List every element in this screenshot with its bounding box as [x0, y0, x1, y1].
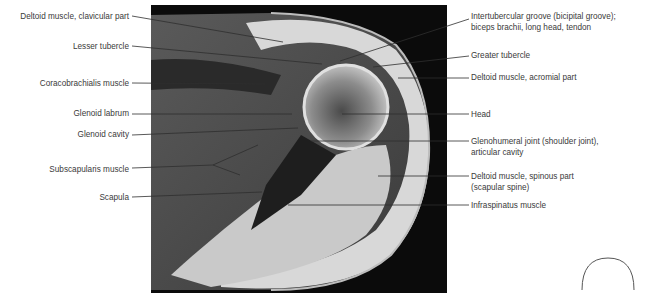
label-lesser-tubercle: Lesser tubercle: [73, 41, 129, 52]
label-head: Head: [471, 109, 491, 120]
label-deltoid-acromial: Deltoid muscle, acromial part: [471, 72, 577, 83]
label-deltoid-clavicular: Deltoid muscle, clavicular part: [20, 11, 129, 22]
label-greater-tubercle: Greater tubercle: [471, 50, 530, 61]
label-glenohumeral-joint: Glenohumeral joint (shoulder joint),arti…: [471, 136, 598, 158]
label-glenoid-cavity: Glenoid cavity: [78, 129, 129, 140]
label-glenoid-labrum: Glenoid labrum: [73, 108, 129, 119]
label-scapula: Scapula: [99, 192, 129, 203]
label-deltoid-spinous: Deltoid muscle, spinous part(scapular sp…: [471, 171, 574, 193]
label-infraspinatus: Infraspinatus muscle: [471, 200, 546, 211]
mri-shoulder-image: [151, 5, 447, 293]
label-intertubercular-groove: Intertubercular groove (bicipital groove…: [471, 11, 616, 33]
mri-image: [151, 5, 447, 293]
label-subscapularis: Subscapularis muscle: [49, 164, 129, 175]
orientation-arc-icon: [582, 258, 634, 290]
label-coracobrachialis: Coracobrachialis muscle: [40, 78, 129, 89]
